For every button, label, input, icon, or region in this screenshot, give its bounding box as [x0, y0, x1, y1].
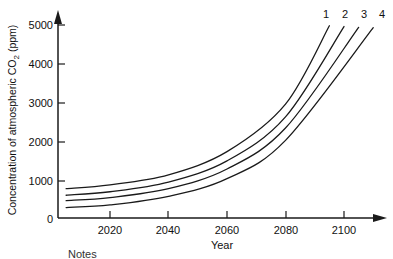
y-axis-title-text: Concentration of atmospheric CO2 (ppm): [6, 25, 21, 216]
x-tick-label-2060: 2060: [215, 224, 239, 236]
curve-2: [66, 27, 344, 196]
x-axis: [58, 214, 387, 222]
curve-1: [66, 26, 329, 189]
x-tick-label-2100: 2100: [332, 224, 356, 236]
curve-label-1: 1: [323, 8, 329, 20]
curve-label-4: 4: [379, 8, 385, 20]
y-tick-label-5000: 5000: [29, 19, 53, 31]
y-tick-label-4000: 4000: [29, 58, 53, 70]
y-tick-label-2000: 2000: [29, 136, 53, 148]
y-axis-arrow-icon: [54, 10, 62, 24]
curve-label-3: 3: [361, 8, 367, 20]
co2-projection-chart: 5000 4000 3000 2000 1000 0 2020 2040 206…: [0, 0, 393, 259]
y-tick-label-3000: 3000: [29, 97, 53, 109]
y-tick-label-0: 0: [47, 213, 53, 225]
notes-label: Notes: [68, 248, 97, 259]
x-axis-arrow-icon: [373, 214, 387, 222]
curve-group: [66, 26, 373, 208]
x-axis-title: Year: [211, 239, 234, 251]
y-tick-label-1000: 1000: [29, 175, 53, 187]
x-axis-ticks: 2020 2040 2060 2080 2100: [98, 211, 356, 236]
y-axis-title: Concentration of atmospheric CO2 (ppm): [6, 25, 21, 216]
x-tick-label-2020: 2020: [98, 224, 122, 236]
curve-label-2: 2: [342, 8, 348, 20]
curve-end-labels: 1 2 3 4: [323, 8, 385, 20]
chart-canvas: 5000 4000 3000 2000 1000 0 2020 2040 206…: [0, 0, 393, 259]
y-axis-title-lead: Concentration of atmospheric CO: [6, 59, 18, 215]
x-tick-label-2040: 2040: [156, 224, 180, 236]
y-axis-ticks: 5000 4000 3000 2000 1000 0: [29, 19, 65, 225]
y-axis: [54, 10, 62, 218]
x-tick-label-2080: 2080: [274, 224, 298, 236]
y-axis-title-tail: (ppm): [6, 25, 18, 55]
